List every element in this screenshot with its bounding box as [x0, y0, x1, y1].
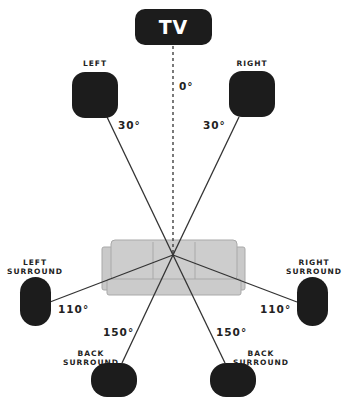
- right-surround-label: RIGHT SURROUND: [280, 258, 348, 276]
- left-surround-angle: 110°: [58, 303, 89, 315]
- back-right-speaker: [210, 363, 256, 397]
- back-left-angle: 150°: [103, 326, 134, 338]
- right-speaker-label: RIGHT: [229, 59, 275, 68]
- right-surround-speaker: [297, 277, 328, 326]
- left-surround-speaker: [20, 277, 51, 326]
- left-surround-label: LEFT SURROUND: [2, 258, 68, 276]
- left-speaker-label: LEFT: [72, 59, 118, 68]
- back-left-speaker: [91, 363, 137, 397]
- right-surround-angle: 110°: [260, 303, 291, 315]
- speaker-diagram: TV LEFT 30° RIGHT 30° 0° LEFT SURROUND 1…: [0, 0, 355, 411]
- back-right-angle: 150°: [216, 326, 247, 338]
- right-angle: 30°: [203, 119, 226, 131]
- couch-icon: [102, 240, 245, 295]
- tv: TV: [135, 9, 212, 45]
- diagram-lines: [0, 0, 355, 411]
- tv-label: TV: [159, 16, 189, 38]
- left-speaker: [72, 72, 118, 118]
- left-angle: 30°: [118, 119, 141, 131]
- center-angle: 0°: [179, 80, 194, 92]
- right-speaker: [229, 71, 275, 117]
